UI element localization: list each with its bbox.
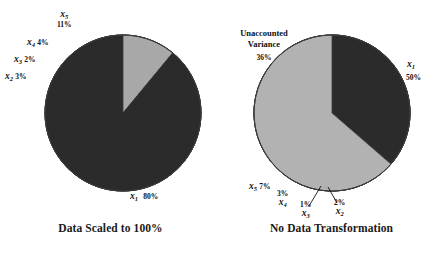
pie-left [0,0,221,210]
label-right-x1: x1 [407,60,415,71]
panel-data-scaled: x5 11% x4 4% x3 2% x2 3% x1 80% Data Sca… [0,0,221,262]
label-right-x4: 3% x4 [277,190,288,209]
label-right-x5: x5 7% [249,182,271,193]
pie-slice-x5 [45,35,201,191]
label-right-unaccounted: Unaccounted Variance 36% [221,28,307,63]
caption-left: Data Scaled to 100% [0,222,221,234]
label-left-x1: x1 80% [130,192,158,203]
label-left-x4: x4 4% [27,38,49,49]
label-left-x2: x2 3% [5,72,27,83]
label-left-x3: x3 2% [14,55,36,66]
caption-right: No Data Transformation [221,222,442,234]
label-left-x5: x5 11% [57,10,72,29]
label-right-x2: 2% x2 [334,199,345,218]
panel-no-transformation: Unaccounted Variance 36% x1 50% x5 7% 3%… [221,0,442,262]
label-right-x1-pct: 50% [406,74,421,82]
pie-chart-figure: x5 11% x4 4% x3 2% x2 3% x1 80% Data Sca… [0,0,442,262]
label-right-x3: 1% x3 [300,201,311,220]
pie-left-svg [0,0,221,210]
